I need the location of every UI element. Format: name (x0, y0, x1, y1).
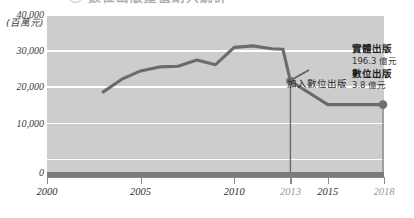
y-tick-label: 40,000 (0, 9, 44, 20)
chart-page: 數位出版產值納入統計 (百萬元) 40,000 30,000 20,000 (0, 0, 414, 218)
callout-digital-publishing-label: 數位出版 (352, 68, 414, 81)
series-line-chart (47, 14, 384, 177)
x-tick-label-2005: 2005 (130, 186, 151, 197)
data-marker-2018 (379, 100, 388, 109)
x-tick-mark (290, 177, 291, 184)
circle-number-icon (68, 0, 83, 3)
y-tick-label: 20,000 (0, 81, 44, 92)
x-tick-label-2018: 2018 (374, 186, 395, 197)
y-tick-label: 0 (0, 167, 44, 178)
x-tick-label-2010: 2010 (224, 186, 245, 197)
y-tick-label: 30,000 (0, 45, 44, 56)
x-tick-label-2000: 2000 (37, 186, 58, 197)
x-tick-mark (328, 177, 329, 184)
annotation-digital-publishing-added: 加入數位出版 (287, 76, 347, 90)
x-tick-mark (47, 177, 48, 184)
x-tick-mark (384, 177, 385, 184)
plot-area (47, 14, 384, 177)
y-tick-label: 10,000 (0, 117, 44, 128)
x-axis-line (47, 177, 385, 178)
x-tick-label-2015: 2015 (317, 186, 338, 197)
annotation-callout-block: 實體出版 196.3 億元 數位出版 3.8 億元 (352, 43, 414, 93)
page-title-strip: 數位出版產值納入統計 (0, 0, 414, 13)
page-title: 數位出版產值納入統計 (88, 0, 228, 6)
x-tick-mark (141, 177, 142, 184)
callout-digital-publishing-value: 3.8 億元 (352, 80, 414, 91)
x-tick-mark (234, 177, 235, 184)
x-tick-label-2013: 2013 (280, 186, 301, 197)
callout-physical-publishing-label: 實體出版 (352, 43, 414, 56)
callout-physical-publishing-value: 196.3 億元 (352, 56, 414, 67)
